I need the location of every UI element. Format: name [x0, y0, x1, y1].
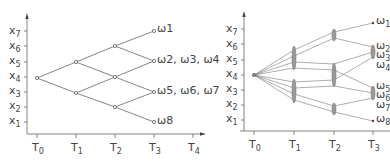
right-y-label-x1: x1 [226, 112, 238, 127]
left-x-labels: T0 T1 T2 T3 T4 [31, 141, 200, 156]
right-node-omega1 [372, 22, 375, 25]
left-y-label-x4: x4 [9, 69, 21, 84]
left-x-label-t4: T4 [187, 141, 200, 156]
left-y-label-x5: x5 [9, 54, 21, 69]
right-x-label-t0: T0 [248, 138, 261, 153]
right-root-node [252, 73, 255, 76]
t2-bottom-cluster [332, 103, 336, 115]
right-tree-edges [254, 23, 373, 121]
right-outcome-omega8: ω8 [376, 112, 390, 127]
right-x-ticks [254, 131, 373, 135]
left-outcome-omega5-7: ω5, ω6, ω7 [157, 84, 220, 97]
right-y-label-x7: x7 [226, 22, 238, 37]
right-x-label-t2: T2 [328, 138, 341, 153]
right-y-label-x2: x2 [226, 97, 238, 112]
right-y-axis-arrow-icon [242, 11, 245, 17]
left-x-axis-arrow-icon [200, 132, 206, 135]
right-y-labels: x7 x6 x5 x4 x3 x2 x1 [226, 22, 238, 127]
left-tree-edges [37, 31, 154, 122]
left-x-label-t0: T0 [31, 141, 44, 156]
t3-upper-cluster [371, 45, 375, 59]
right-node-groups [292, 29, 375, 115]
right-x-label-t1: T1 [288, 138, 301, 153]
right-y-ticks [241, 29, 244, 120]
t3-lower-cluster [371, 86, 375, 100]
left-x-label-t1: T1 [70, 141, 83, 156]
left-outcome-labels: ω1 ω2, ω3, ω4 ω5, ω6, ω7 ω8 [157, 22, 220, 127]
t2-top-cluster [332, 29, 336, 41]
right-outcome-omega1: ω1 [376, 14, 390, 29]
right-panel [240, 11, 390, 135]
t2-middle-cluster [332, 63, 336, 87]
t1-lower-cluster [292, 79, 296, 103]
left-outcome-omega8: ω8 [157, 114, 173, 127]
diagram-canvas: x7 x6 x5 x4 x3 x2 x1 T0 T1 T2 T3 T4 ω1 ω… [0, 0, 390, 166]
left-y-axis-arrow-icon [25, 13, 28, 19]
left-y-label-x6: x6 [9, 39, 21, 54]
right-y-label-x6: x6 [226, 37, 238, 52]
t1-upper-cluster [292, 46, 296, 70]
left-panel [24, 13, 200, 138]
left-y-label-x1: x1 [9, 114, 21, 129]
left-y-label-x2: x2 [9, 99, 21, 114]
left-y-label-x3: x3 [9, 84, 21, 99]
right-outcome-labels: ω1 ω2 ω3 ω4 ω5 ω6 ω7 ω8 [376, 14, 390, 127]
right-y-label-x4: x4 [226, 67, 238, 82]
right-y-label-x3: x3 [226, 82, 238, 97]
left-x-ticks [37, 134, 193, 138]
left-x-label-t3: T3 [148, 141, 161, 156]
left-y-labels: x7 x6 x5 x4 x3 x2 x1 [9, 24, 21, 129]
left-outcome-omega1: ω1 [157, 22, 173, 35]
right-x-label-t3: T3 [367, 138, 380, 153]
left-x-label-t2: T2 [109, 141, 122, 156]
right-y-label-x5: x5 [226, 52, 238, 67]
left-y-label-x7: x7 [9, 24, 21, 39]
right-x-labels: T0 T1 T2 T3 [248, 138, 380, 153]
left-tree-nodes [35, 29, 155, 123]
left-outcome-omega2-4: ω2, ω3, ω4 [157, 53, 220, 66]
left-y-ticks [24, 31, 27, 122]
right-node-omega8 [372, 120, 375, 123]
